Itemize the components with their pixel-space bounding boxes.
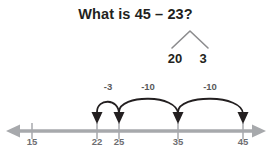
- page-title: What is 45 – 23?: [0, 6, 271, 22]
- number-bond-part-1: 20: [162, 51, 188, 66]
- tick-label-35: 35: [166, 136, 190, 147]
- jump-arrowhead-25-icon: [114, 112, 125, 124]
- jump-arrowhead-45-icon: [238, 112, 249, 124]
- jump-label-minus-3: -3: [96, 81, 120, 92]
- jump-arrowhead-35-icon: [173, 112, 184, 124]
- axis-left-arrowhead-icon: [6, 125, 20, 138]
- jump-arrowheads: [92, 112, 249, 124]
- tick-label-25: 25: [107, 136, 131, 147]
- number-line-diagram: -3 -10 -10 15 22 25 35 45: [0, 76, 271, 159]
- jump-arc-45-to-35: [178, 99, 243, 114]
- jump-arc-35-to-25: [119, 99, 178, 114]
- tick-label-45: 45: [231, 136, 255, 147]
- jump-label-minus-10-second: -10: [196, 81, 224, 92]
- number-bond: 20 3: [155, 26, 230, 70]
- jump-label-minus-10-first: -10: [134, 81, 162, 92]
- tick-label-15: 15: [20, 136, 44, 147]
- math-worksheet-figure: What is 45 – 23? 20 3: [0, 0, 271, 159]
- tick-label-22: 22: [85, 136, 109, 147]
- jump-arrowhead-22-icon: [92, 112, 103, 124]
- number-bond-part-2: 3: [193, 51, 213, 66]
